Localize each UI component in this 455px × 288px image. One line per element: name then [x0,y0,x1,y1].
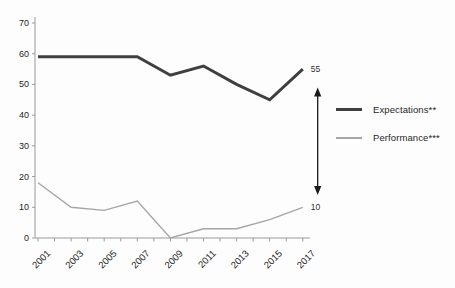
performance-line [38,183,303,238]
chart-canvas: 010203040506070 200120032005200720092011… [0,0,455,288]
performance-line-swatch [336,137,362,139]
gap-arrow-head-up [314,88,321,97]
expectations-line-swatch [336,108,362,111]
y-tick-label: 10 [19,202,29,212]
x-tick-label: 2011 [196,248,218,270]
x-tick-label: 2005 [96,248,119,271]
legend-item-performance: Performance*** [336,132,440,143]
y-tick-label: 0 [24,233,29,243]
chart-legend: Expectations** Performance*** [336,104,440,143]
x-tick-label: 2013 [228,248,251,271]
legend-item-expectations: Expectations** [336,104,440,115]
gap-arrow-head-down [314,186,321,195]
y-tick-label: 60 [19,49,29,59]
x-tick-label: 2001 [30,248,53,271]
x-tick-label: 2017 [294,248,317,271]
y-tick-label: 40 [19,110,29,120]
x-axis: 200120032005200720092011201320152017 [30,238,318,270]
y-tick-label: 70 [19,18,29,28]
x-tick-label: 2007 [129,248,152,271]
x-tick-label: 2015 [261,248,284,271]
end-value-label: 55 [311,64,321,74]
legend-label-expectations: Expectations** [373,104,436,115]
series-lines [38,57,303,238]
y-tick-label: 30 [19,141,29,151]
end-value-label: 10 [311,202,321,212]
expectations-performance-line-chart: 010203040506070 200120032005200720092011… [0,0,455,288]
y-tick-label: 50 [19,79,29,89]
expectations-line [38,57,303,100]
x-tick-label: 2003 [63,248,86,271]
y-axis: 010203040506070 [19,17,35,243]
legend-label-performance: Performance*** [373,132,440,143]
y-tick-label: 20 [19,172,29,182]
gap-arrow [314,88,321,196]
x-tick-label: 2009 [162,248,185,271]
